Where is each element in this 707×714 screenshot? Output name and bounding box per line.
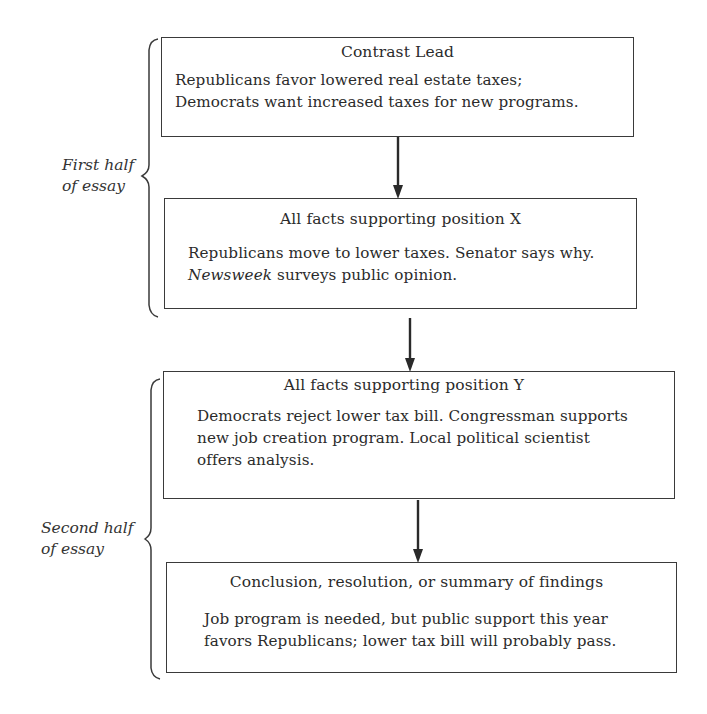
body-line: new job creation program. Local politica… [197,427,628,449]
box-contrast-lead: Contrast Lead Republicans favor lowered … [161,37,634,137]
body-line: Republicans favor lowered real estate ta… [175,69,579,91]
body-line: Job program is needed, but public suppor… [204,608,616,630]
label-line: of essay [41,539,134,560]
box-title: All facts supporting position Y [134,376,674,394]
publication-name: Newsweek [188,266,272,284]
body-line: favors Republicans; lower tax bill will … [204,630,616,652]
brace-first-half [142,39,158,317]
section-label-first-half: First half of essay [62,155,134,197]
box-title: Conclusion, resolution, or summary of fi… [157,573,676,591]
body-text: surveys public opinion. [272,266,457,284]
label-line: First half [62,155,134,176]
arrow-down-icon [393,137,403,199]
arrow-down-icon [405,318,415,372]
box-body: Republicans move to lower taxes. Senator… [188,242,594,286]
box-body: Republicans favor lowered real estate ta… [175,69,579,113]
brace-second-half [145,379,160,679]
label-line: of essay [62,176,134,197]
box-conclusion: Conclusion, resolution, or summary of fi… [166,562,677,673]
box-body: Job program is needed, but public suppor… [204,608,616,652]
box-body: Democrats reject lower tax bill. Congres… [197,405,628,471]
body-line: Democrats want increased taxes for new p… [175,91,579,113]
label-line: Second half [41,518,134,539]
body-line: Newsweek surveys public opinion. [188,264,594,286]
body-line: Republicans move to lower taxes. Senator… [188,242,594,264]
body-line: offers analysis. [197,449,628,471]
box-title: All facts supporting position X [165,210,636,228]
box-title: Contrast Lead [162,43,633,61]
body-line: Democrats reject lower tax bill. Congres… [197,405,628,427]
section-label-second-half: Second half of essay [41,518,134,560]
box-position-y: All facts supporting position Y Democrat… [163,371,675,499]
box-position-x: All facts supporting position X Republic… [164,198,637,309]
arrow-down-icon [413,500,423,563]
